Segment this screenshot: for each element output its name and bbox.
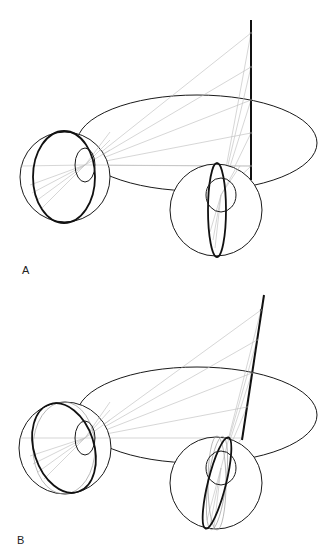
rod-b [242,295,264,440]
panel-label-b: B [17,534,24,546]
panel-b [19,295,317,531]
left-eye-globe-b [19,395,111,501]
rod-a [250,20,252,180]
diagram-canvas [0,0,336,548]
panel-label-a: A [22,264,29,276]
right-eye-globe-a [170,163,262,257]
right-eye-globe-b [170,435,262,531]
panel-a [20,20,317,257]
